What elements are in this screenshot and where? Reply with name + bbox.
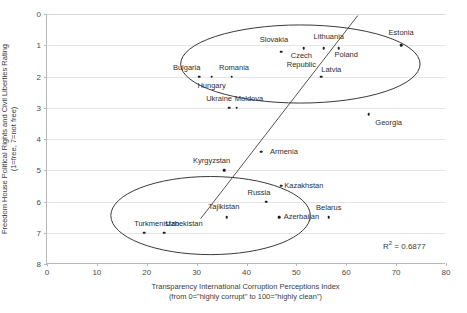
data-point	[210, 75, 213, 78]
data-point	[230, 75, 233, 78]
x-axis-tick-label: 80	[442, 268, 451, 277]
gridline	[47, 202, 445, 203]
x-axis-tick-mark	[446, 263, 447, 266]
x-axis-tick-label: 0	[45, 268, 49, 277]
x-axis-tick-label: 50	[292, 268, 301, 277]
x-axis-tick-mark	[346, 263, 347, 266]
x-axis-tick-mark	[147, 263, 148, 266]
x-axis-tick-mark	[247, 263, 248, 266]
data-point-label: Bulgaria	[173, 64, 201, 73]
data-point	[260, 150, 263, 153]
y-axis-tick-mark	[44, 170, 47, 171]
data-point-label: Romania	[219, 64, 249, 73]
gridline	[47, 170, 445, 171]
data-point	[320, 75, 323, 78]
y-axis-tick-mark	[44, 77, 47, 78]
data-point	[400, 44, 403, 47]
x-axis-title-line1: Transparency International Corruption Pe…	[46, 282, 445, 292]
data-point	[303, 47, 306, 50]
y-axis-tick-mark	[44, 45, 47, 46]
data-point	[235, 106, 238, 109]
x-axis-tick-label: 20	[142, 268, 151, 277]
y-axis-tick-mark	[44, 139, 47, 140]
x-axis-tick-label: 60	[342, 268, 351, 277]
y-axis-title-line2: (1=free, 7=not free)	[9, 107, 19, 172]
y-axis-tick-mark	[44, 202, 47, 203]
x-axis-tick-mark	[47, 263, 48, 266]
x-axis-tick-mark	[197, 263, 198, 266]
data-point-label: Kyrgyzstan	[193, 157, 230, 166]
data-point-label: Tajikistan	[209, 203, 240, 212]
data-point-label: Kazakhstan	[284, 182, 323, 191]
data-point-label: Poland	[335, 51, 358, 60]
data-point-label: Latvia	[321, 65, 341, 74]
data-point	[143, 231, 146, 234]
x-axis-tick-label: 10	[92, 268, 101, 277]
data-point-label: Moldova	[235, 95, 263, 104]
data-point-label: Georgia	[375, 119, 402, 128]
x-axis-tick-mark	[396, 263, 397, 266]
data-point	[323, 47, 326, 50]
data-point	[198, 75, 201, 78]
data-point-label: Estonia	[389, 29, 414, 38]
data-point	[280, 185, 283, 188]
y-axis-tick-mark	[44, 14, 47, 15]
data-point-label: Belarus	[316, 204, 341, 213]
plot-area: 01234567801020304050607080EstoniaSlovaki…	[46, 14, 445, 264]
data-point	[327, 216, 330, 219]
gridline	[47, 14, 445, 15]
data-point	[367, 113, 370, 116]
data-point-label: Slovakia	[260, 35, 288, 44]
x-axis-tick-label: 40	[242, 268, 251, 277]
gridline	[47, 108, 445, 109]
x-axis-tick-mark	[296, 263, 297, 266]
y-axis-tick-mark	[44, 233, 47, 234]
y-axis-title-line1: Freedom House Political Rights and Civil…	[0, 44, 9, 234]
data-point	[223, 169, 226, 172]
x-axis-tick-label: 30	[192, 268, 201, 277]
data-point-label: Russia	[248, 189, 271, 198]
data-point	[225, 216, 228, 219]
data-point	[278, 216, 281, 219]
y-axis-title: Freedom House Political Rights and Civil…	[2, 14, 16, 264]
y-axis-tick-mark	[44, 108, 47, 109]
gridline	[47, 45, 445, 46]
x-axis-tick-mark	[97, 263, 98, 266]
x-axis-title: Transparency International Corruption Pe…	[46, 282, 445, 301]
data-point	[163, 231, 166, 234]
data-point	[265, 200, 268, 203]
data-point	[228, 106, 231, 109]
data-point-label: Ukraine	[206, 95, 232, 104]
x-axis-tick-label: 70	[392, 268, 401, 277]
data-point	[280, 50, 283, 53]
data-point-label: Czech Republic	[287, 52, 316, 69]
data-point-label: Lithuania	[314, 32, 344, 41]
data-point-label: Azerbaijan	[284, 213, 319, 222]
gridline	[47, 77, 445, 78]
scatter-chart: Freedom House Political Rights and Civil…	[0, 0, 467, 313]
gridline	[47, 233, 445, 234]
data-point-label: Armenia	[270, 148, 298, 157]
data-point-label: Hungary	[197, 82, 225, 91]
data-point-label: Uzbekistan	[166, 220, 203, 229]
x-axis-title-line2: (from 0="highly corrupt" to 100="highly …	[46, 292, 445, 302]
r-squared-annotation: R2 = 0.6877	[383, 240, 426, 251]
gridline	[47, 139, 445, 140]
